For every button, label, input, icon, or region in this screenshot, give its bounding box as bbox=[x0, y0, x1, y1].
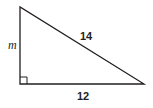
right-triangle-diagram: m 14 12 bbox=[0, 0, 153, 108]
horizontal-leg-label: 12 bbox=[77, 90, 89, 102]
right-angle-marker bbox=[20, 77, 27, 84]
vertical-leg-label: m bbox=[8, 38, 17, 52]
triangle bbox=[20, 7, 144, 84]
hypotenuse-label: 14 bbox=[80, 30, 93, 42]
